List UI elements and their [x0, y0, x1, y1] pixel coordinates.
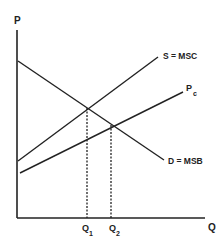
q2-subscript: 2 [116, 230, 120, 237]
q1-label: Q [82, 223, 89, 233]
private-cost-curve [20, 92, 183, 173]
private-cost-label: P [186, 83, 192, 93]
x-axis-label: Q [208, 222, 216, 233]
y-axis-label: P [14, 15, 21, 26]
q1-subscript: 1 [89, 230, 93, 237]
private-cost-subscript: c [193, 90, 197, 97]
demand-label: D = MSB [168, 156, 203, 166]
q2-label: Q [109, 223, 116, 233]
externality-diagram: P Q S = MSC P c D = MSB Q 1 Q 2 [0, 0, 222, 244]
supply-label: S = MSC [163, 51, 197, 61]
